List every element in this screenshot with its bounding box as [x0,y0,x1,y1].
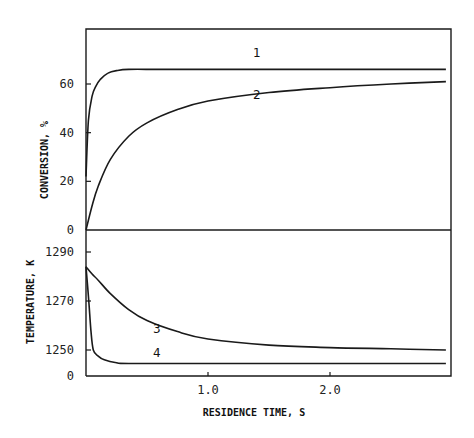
chart: 020406012 012501270129034 1.02.0 CONVERS… [0,0,474,438]
curve-2 [86,82,446,230]
plot-frame [86,29,451,376]
y-axis-title-temperature: TEMPERATURE, K [25,260,36,344]
y-tick-label: 0 [67,223,74,237]
y-axis-title-conversion: CONVERSION, % [39,121,50,199]
frame-border [86,29,451,376]
conversion-panel: 020406012 [60,46,446,237]
curve-1 [86,69,446,176]
x-tick-label: 1.0 [197,383,219,397]
curve-label-3: 3 [153,322,161,336]
x-axis-title: RESIDENCE TIME, S [203,407,305,418]
y-tick-label: 20 [60,174,74,188]
y-tick-label: 1250 [45,343,74,357]
y-tick-label: 1270 [45,294,74,308]
y-tick-label: 0 [67,369,74,383]
y-tick-label: 60 [60,77,74,91]
curve-label-2: 2 [253,88,261,102]
curve-3 [86,267,446,350]
y-tick-label: 1290 [45,245,74,259]
temperature-panel: 012501270129034 [45,245,446,383]
y-tick-label: 40 [60,126,74,140]
x-tick-label: 2.0 [319,383,341,397]
curve-label-4: 4 [153,346,161,360]
curve-label-1: 1 [253,46,261,60]
